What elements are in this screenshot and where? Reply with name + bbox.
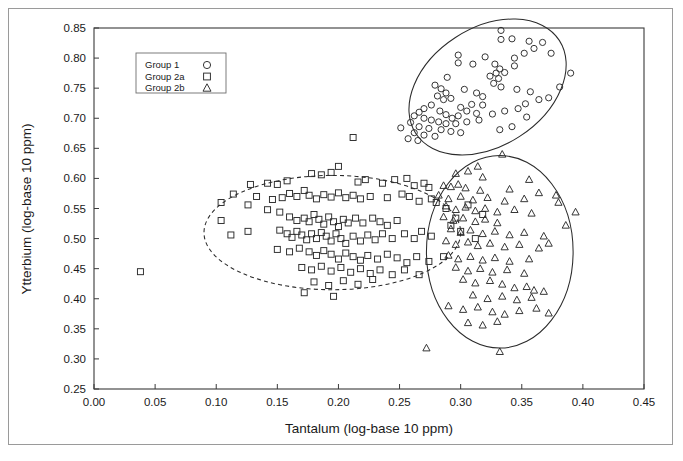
data-point-square [404,260,410,266]
data-point-circle [458,104,464,110]
data-point-circle [434,93,440,99]
data-point-circle [514,86,520,92]
data-point-triangle [452,264,459,271]
data-point-circle [509,124,515,130]
data-point-triangle [491,228,498,235]
x-tick-label: 0.35 [511,396,533,408]
data-point-square [357,257,363,263]
data-point-circle [522,101,528,107]
data-point-triangle [455,255,462,262]
data-point-square [338,264,344,270]
square-marker-icon [204,73,211,80]
data-point-square [306,249,312,255]
data-point-square [296,245,302,251]
data-point-circle [428,102,434,108]
data-point-triangle [477,265,484,272]
data-point-triangle [460,276,467,283]
data-point-circle [405,136,411,142]
y-tick-label: 0.65 [64,142,86,154]
data-point-triangle [460,214,467,221]
data-point-square [218,218,224,224]
data-point-square [321,248,327,254]
data-point-triangle [455,181,462,188]
data-point-circle [492,61,498,67]
data-point-circle [470,61,476,67]
data-point-triangle [535,244,542,251]
data-point-square [375,256,381,262]
data-point-square [350,192,356,198]
data-point-circle [531,45,537,51]
data-point-square [416,272,422,278]
data-point-square [230,191,236,197]
data-point-triangle [479,321,486,328]
data-point-square [367,270,373,276]
data-point-square [399,191,405,197]
data-point-square [265,207,271,213]
data-point-square [326,283,332,289]
data-point-triangle [528,210,535,217]
data-point-triangle [472,207,479,214]
data-point-circle [568,70,574,76]
data-point-square [318,172,324,178]
data-point-square [372,237,378,243]
data-point-square [328,268,334,274]
data-point-square [350,254,356,260]
data-point-square [377,267,383,273]
data-point-circle [495,75,501,81]
data-point-circle [536,96,542,102]
data-point-square [357,266,363,272]
data-point-circle [497,127,503,133]
data-point-circle [455,113,461,119]
data-point-square [311,279,317,285]
data-point-square [274,246,280,252]
data-point-circle [491,80,497,86]
data-point-triangle [504,266,511,273]
data-point-triangle [496,348,503,355]
data-point-triangle [452,241,459,248]
data-point-triangle [562,222,569,229]
data-point-triangle [489,308,496,315]
x-tick-label: 0.30 [449,396,471,408]
data-point-circle [526,38,532,44]
data-point-square [277,209,283,215]
data-point-circle [428,117,434,123]
data-point-triangle [457,193,464,200]
data-point-square [367,193,373,199]
y-tick-label: 0.70 [64,112,86,124]
data-point-triangle [516,307,523,314]
data-point-triangle [555,199,562,206]
data-point-triangle [494,318,501,325]
data-point-circle [480,93,486,99]
data-point-square [321,192,327,198]
data-point-square [328,169,334,175]
data-point-triangle [526,176,533,183]
data-point-square [384,195,390,201]
data-point-circle [502,108,508,114]
data-point-square [353,215,359,221]
data-point-circle [416,124,422,130]
y-tick-label: 0.25 [64,383,86,395]
data-point-square [384,251,390,257]
data-point-circle [511,63,517,69]
y-tick-label: 0.35 [64,323,86,335]
data-point-circle [453,121,459,127]
data-point-square [394,218,400,224]
data-point-triangle [535,189,542,196]
data-point-triangle [462,203,469,210]
data-point-square [335,190,341,196]
data-point-triangle [452,206,459,213]
data-point-triangle [501,243,508,250]
data-point-square [340,278,346,284]
x-axis-title: Tantalum (log-base 10 ppm) [285,421,453,436]
data-point-circle [487,73,493,79]
data-point-triangle [523,283,530,290]
data-point-triangle [526,255,533,262]
data-point-circle [426,125,432,131]
data-point-triangle [521,195,528,202]
data-point-circle [437,108,443,114]
data-point-square [137,269,143,275]
data-point-triangle [479,256,486,263]
data-point-square [416,198,422,204]
data-point-circle [546,95,552,101]
data-point-triangle [511,284,518,291]
